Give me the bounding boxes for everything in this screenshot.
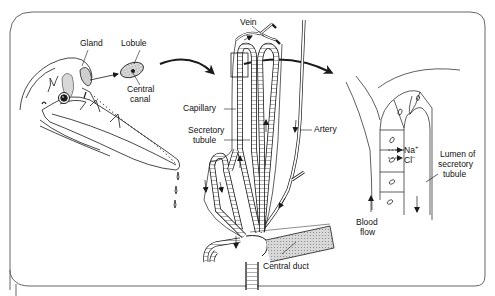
label-gland: Gland	[80, 39, 103, 48]
cell-detail-illustration	[346, 69, 460, 220]
label-lobule: Lobule	[121, 39, 147, 48]
label-secretory-tubule-2: tubule	[193, 136, 216, 145]
diagram-canvas	[0, 0, 495, 296]
label-blood-flow-2: flow	[360, 228, 375, 237]
label-lumen-2: secretory	[438, 160, 473, 169]
na-charge: +	[415, 144, 419, 150]
lobule-illustration	[90, 59, 146, 80]
label-central-duct: Central duct	[263, 262, 309, 271]
bird-head-illustration	[20, 58, 180, 208]
label-secretory-tubule-1: Secretory	[188, 126, 224, 135]
label-lumen-3: tubule	[443, 170, 466, 179]
label-blood-flow-1: Blood	[356, 218, 378, 227]
label-artery: Artery	[314, 125, 337, 134]
label-central-canal-2: canal	[130, 95, 150, 104]
label-central-canal-1: Central	[127, 85, 154, 94]
label-lumen-1: Lumen of	[440, 150, 475, 159]
label-vein: Vein	[240, 18, 257, 27]
cl-symbol: Cl	[404, 155, 412, 165]
salt-gland-diagram: Gland Lobule Central canal Vein Capillar…	[0, 0, 495, 296]
cl-charge: −	[412, 154, 416, 160]
label-chloride-ion: Cl−	[404, 154, 416, 165]
label-capillary: Capillary	[183, 104, 216, 113]
zoom-arrow-1	[160, 60, 212, 73]
